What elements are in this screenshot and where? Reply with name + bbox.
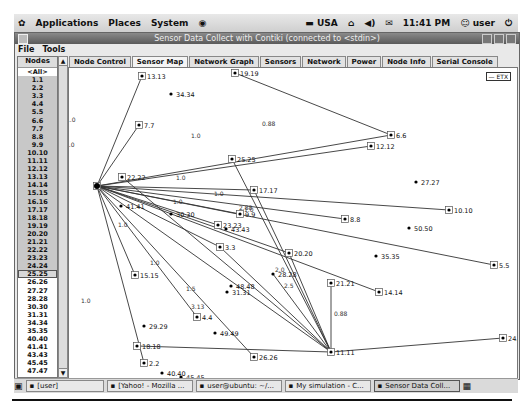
- tab-node-info[interactable]: Node Info: [382, 56, 430, 67]
- node-list-item[interactable]: <All>: [18, 68, 57, 76]
- taskbar-button[interactable]: ▪[user]: [26, 380, 104, 392]
- shutdown-icon[interactable]: ⏻: [505, 18, 512, 29]
- applications-menu[interactable]: Applications: [36, 18, 99, 28]
- sensor-node[interactable]: 7.7: [136, 122, 155, 130]
- node-list-item[interactable]: 16.16: [18, 198, 57, 206]
- node-list-item[interactable]: 41.41: [18, 343, 57, 351]
- tools-menu[interactable]: Tools: [42, 45, 65, 54]
- sensor-map-canvas[interactable]: 1.01.00.881.01.01.01.01.01.01.01.51.02.5…: [68, 67, 518, 379]
- window-titlebar[interactable]: Sensor Data Collect with Contiki (connec…: [15, 33, 519, 44]
- node-list-item[interactable]: 10.10: [18, 149, 57, 157]
- node-list-item[interactable]: 27.27: [18, 287, 57, 295]
- clock[interactable]: 11:41 PM: [403, 18, 450, 28]
- sensor-node[interactable]: 6.6: [388, 132, 407, 140]
- sensor-node[interactable]: [94, 183, 101, 190]
- sensor-node[interactable]: 13.13: [139, 73, 166, 81]
- places-menu[interactable]: Places: [108, 18, 141, 28]
- node-list-item[interactable]: 24.24: [18, 262, 57, 270]
- tab-power[interactable]: Power: [347, 56, 382, 67]
- sensor-node[interactable]: 4.4: [194, 314, 213, 322]
- tab-sensors[interactable]: Sensors: [260, 56, 301, 67]
- sensor-node[interactable]: 18.18: [134, 343, 161, 351]
- node-list-item[interactable]: 3.3: [18, 92, 57, 100]
- user-menu[interactable]: ☺ user: [460, 18, 495, 29]
- node-list-item[interactable]: 45.45: [18, 359, 57, 367]
- sensor-node[interactable]: 20.20: [286, 250, 313, 258]
- window-menu-icon[interactable]: [18, 34, 28, 44]
- node-list-item[interactable]: 7.7: [18, 125, 57, 133]
- taskbar-button[interactable]: ▪My simulation - C...: [285, 380, 371, 392]
- taskbar-button[interactable]: ▪Sensor Data Coll...: [374, 380, 460, 392]
- sensor-node[interactable]: 9.9: [237, 211, 256, 219]
- node-list-item[interactable]: 31.31: [18, 311, 57, 319]
- mail-icon[interactable]: ✉: [385, 18, 393, 29]
- file-menu[interactable]: File: [18, 45, 34, 54]
- system-menu[interactable]: System: [151, 18, 189, 28]
- node-list-item[interactable]: 25.25: [18, 270, 57, 278]
- node-list-item[interactable]: 2.2: [18, 84, 57, 92]
- node-list-item[interactable]: 13.13: [18, 173, 57, 181]
- sensor-node[interactable]: 34.34: [169, 91, 194, 99]
- sensor-node[interactable]: 15.15: [132, 272, 159, 280]
- node-list-item[interactable]: 20.20: [18, 230, 57, 238]
- node-list-item[interactable]: 5.5: [18, 108, 57, 116]
- node-list-item[interactable]: 30.30: [18, 303, 57, 311]
- node-list-item[interactable]: 9.9: [18, 141, 57, 149]
- sensor-node[interactable]: 8.8: [342, 216, 361, 224]
- node-list-item[interactable]: 6.6: [18, 117, 57, 125]
- sensor-node[interactable]: 25.25: [229, 156, 256, 164]
- node-list-item[interactable]: 15.15: [18, 189, 57, 197]
- node-list-item[interactable]: 11.11: [18, 157, 57, 165]
- node-list-item[interactable]: 28.28: [18, 295, 57, 303]
- sensor-node[interactable]: 41.41: [119, 203, 144, 211]
- nodes-scrollbar[interactable]: ▲ ▼: [58, 56, 68, 378]
- sensor-node[interactable]: 22.22: [119, 174, 146, 182]
- volume-icon[interactable]: ◀): [364, 18, 375, 29]
- sensor-node[interactable]: 26.26: [251, 354, 278, 362]
- taskbar-button[interactable]: ▪[Yahoo! - Mozilla ...: [107, 380, 193, 392]
- sensor-node[interactable]: 29.29: [142, 323, 167, 331]
- node-list-item[interactable]: 1.1: [18, 76, 57, 84]
- node-list-item[interactable]: 8.8: [18, 133, 57, 141]
- sensor-node[interactable]: 5.5: [491, 262, 510, 270]
- node-list-item[interactable]: 4.4: [18, 100, 57, 108]
- sensor-node[interactable]: 2.2: [141, 360, 160, 368]
- workspace-switcher-icon[interactable]: ▦: [463, 381, 472, 392]
- keyboard-layout[interactable]: ▬ USA: [305, 18, 337, 29]
- sensor-node[interactable]: 31.31: [225, 289, 250, 297]
- sensor-node[interactable]: 14.14: [376, 289, 403, 297]
- sensor-node[interactable]: 17.17: [251, 187, 278, 195]
- scroll-up-icon[interactable]: ▲: [59, 57, 67, 66]
- node-list-item[interactable]: 26.26: [18, 278, 57, 286]
- node-list-item[interactable]: 14.14: [18, 181, 57, 189]
- sensor-node[interactable]: 10.10: [446, 207, 473, 215]
- node-list-item[interactable]: 17.17: [18, 206, 57, 214]
- sensor-node[interactable]: 21.21: [328, 280, 355, 288]
- sensor-node[interactable]: 19.19: [232, 70, 259, 78]
- minimize-button[interactable]: [482, 34, 492, 44]
- sensor-node[interactable]: 11.11: [328, 349, 355, 357]
- scroll-down-icon[interactable]: ▼: [59, 368, 67, 377]
- network-icon[interactable]: ⌂: [348, 18, 354, 29]
- node-list-item[interactable]: 34.34: [18, 319, 57, 327]
- tab-sensor-map[interactable]: Sensor Map: [132, 56, 188, 67]
- taskbar-button[interactable]: ▪user@ubuntu: ~/...: [196, 380, 282, 392]
- tab-network[interactable]: Network: [302, 56, 345, 67]
- close-button[interactable]: [506, 34, 516, 44]
- node-list-item[interactable]: 23.23: [18, 254, 57, 262]
- tab-node-control[interactable]: Node Control: [69, 56, 131, 67]
- sensor-node[interactable]: 12.12: [368, 143, 395, 151]
- node-list-item[interactable]: 22.22: [18, 246, 57, 254]
- node-list-item[interactable]: 19.19: [18, 222, 57, 230]
- node-list-item[interactable]: 18.18: [18, 214, 57, 222]
- sensor-node[interactable]: 49.49: [213, 330, 238, 338]
- nodes-list[interactable]: Nodes <All>1.12.23.34.45.56.67.78.89.910…: [17, 56, 58, 378]
- node-list-item[interactable]: 40.40: [18, 335, 57, 343]
- node-list-item[interactable]: 35.35: [18, 327, 57, 335]
- sensor-node[interactable]: 3.3: [217, 244, 236, 252]
- tab-network-graph[interactable]: Network Graph: [189, 56, 259, 67]
- sensor-node[interactable]: 24.24: [500, 335, 518, 343]
- sensor-node[interactable]: 50.50: [407, 225, 432, 233]
- show-desktop-icon[interactable]: ▣: [14, 381, 23, 392]
- node-list-item[interactable]: 43.43: [18, 351, 57, 359]
